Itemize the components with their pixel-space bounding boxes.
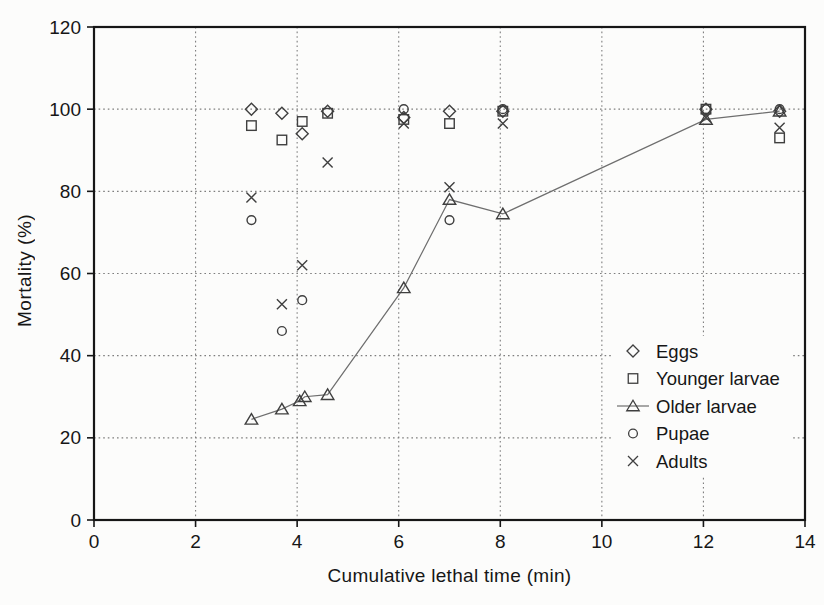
x-tick-label: 12 xyxy=(693,531,714,552)
y-tick-label: 100 xyxy=(49,99,81,120)
legend-label: Younger larvae xyxy=(656,368,780,389)
y-tick-label: 60 xyxy=(60,263,81,284)
legend-label: Eggs xyxy=(656,341,698,362)
marker-x-icon xyxy=(277,299,287,309)
y-tick-label: 20 xyxy=(60,427,81,448)
marker-square-icon xyxy=(297,117,307,127)
marker-square-icon xyxy=(247,121,257,131)
marker-circle-icon xyxy=(445,216,454,225)
x-tick-label: 8 xyxy=(495,531,506,552)
marker-square-icon xyxy=(775,133,785,143)
marker-x-icon xyxy=(323,158,333,168)
y-tick-label: 120 xyxy=(49,17,81,38)
marker-square-icon xyxy=(277,135,287,145)
chart-plot: 02468101214020406080100120EggsYounger la… xyxy=(0,0,824,605)
x-tick-label: 6 xyxy=(393,531,404,552)
marker-diamond-icon xyxy=(276,107,288,119)
legend: EggsYounger larvaeOlder larvaePupaeAdult… xyxy=(612,336,792,475)
marker-diamond-icon xyxy=(444,105,456,117)
legend-label: Pupae xyxy=(656,423,710,444)
marker-x-icon xyxy=(445,182,455,192)
y-tick-label: 40 xyxy=(60,345,81,366)
marker-circle-icon xyxy=(298,296,307,305)
x-tick-label: 4 xyxy=(292,531,303,552)
x-tick-label: 0 xyxy=(89,531,100,552)
x-tick-label: 10 xyxy=(591,531,612,552)
y-tick-label: 0 xyxy=(70,510,81,531)
marker-x-icon xyxy=(775,123,785,133)
x-axis-title: Cumulative lethal time (min) xyxy=(94,565,805,587)
marker-x-icon xyxy=(246,192,256,202)
y-axis-title: Mortality (%) xyxy=(12,120,38,420)
marker-square-icon xyxy=(445,119,455,129)
marker-circle-icon xyxy=(278,327,287,336)
legend-label: Adults xyxy=(656,451,707,472)
series-adults xyxy=(246,112,784,309)
series-pupae xyxy=(247,105,784,336)
marker-circle-icon xyxy=(247,216,256,225)
x-tick-label: 2 xyxy=(190,531,201,552)
y-tick-label: 80 xyxy=(60,181,81,202)
marker-x-icon xyxy=(498,119,508,129)
marker-diamond-icon xyxy=(296,128,308,140)
x-tick-label: 14 xyxy=(794,531,816,552)
legend-label: Older larvae xyxy=(656,396,757,417)
marker-x-icon xyxy=(297,260,307,270)
figure: 02468101214020406080100120EggsYounger la… xyxy=(0,0,824,605)
